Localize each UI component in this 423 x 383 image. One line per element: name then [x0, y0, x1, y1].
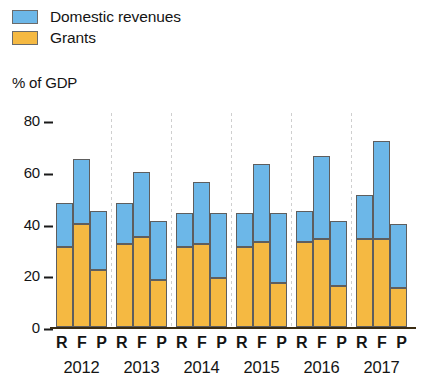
x-year-label-2017: 2017	[356, 358, 407, 377]
bar-segment-grants	[56, 247, 73, 327]
chart-plot-area: 806040200 R F P2012R F P2013R F P2014R F…	[0, 0, 423, 383]
bar-2013-F[interactable]	[133, 172, 150, 327]
bar-2017-P[interactable]	[390, 224, 407, 327]
bar-segment-domestic-revenues	[210, 213, 227, 278]
y-axis-ticks: 806040200	[0, 0, 56, 340]
x-subgroup-letters-2012: R F P	[56, 334, 107, 352]
bar-2012-F[interactable]	[73, 159, 90, 327]
bar-segment-grants	[390, 288, 407, 327]
bar-segment-domestic-revenues	[236, 213, 253, 247]
x-subgroup-letters-2013: R F P	[116, 334, 167, 352]
bar-segment-grants	[313, 239, 330, 327]
y-tick-mark	[44, 277, 53, 279]
y-tick-80: 80	[24, 112, 53, 129]
x-axis-labels: R F P2012R F P2013R F P2014R F P2015R F …	[0, 334, 423, 383]
bar-2014-P[interactable]	[210, 213, 227, 327]
x-label-group-2016: R F P2016	[296, 334, 347, 377]
bar-group-2015	[236, 67, 287, 327]
bar-segment-domestic-revenues	[90, 211, 107, 270]
y-tick-mark	[44, 122, 53, 124]
bar-segment-grants	[270, 283, 287, 327]
x-year-label-2015: 2015	[236, 358, 287, 377]
bar-2014-R[interactable]	[176, 213, 193, 327]
bar-segment-domestic-revenues	[373, 141, 390, 239]
bar-2017-F[interactable]	[373, 141, 390, 327]
bar-segment-grants	[90, 270, 107, 327]
y-tick-value: 40	[24, 215, 40, 232]
bar-segment-domestic-revenues	[150, 221, 167, 280]
bar-segment-domestic-revenues	[116, 203, 133, 244]
bar-segment-domestic-revenues	[330, 221, 347, 286]
group-separator	[351, 113, 352, 327]
bar-2015-R[interactable]	[236, 213, 253, 327]
bar-2016-F[interactable]	[313, 156, 330, 327]
x-subgroup-letters-2014: R F P	[176, 334, 227, 352]
bar-segment-grants	[150, 280, 167, 327]
y-tick-40: 40	[24, 215, 53, 232]
bar-2013-R[interactable]	[116, 203, 133, 327]
y-tick-20: 20	[24, 267, 53, 284]
bar-group-2014	[176, 67, 227, 327]
group-separator	[291, 113, 292, 327]
bar-2012-R[interactable]	[56, 203, 73, 327]
bar-segment-domestic-revenues	[56, 203, 73, 247]
bar-segment-domestic-revenues	[193, 182, 210, 244]
bar-segment-grants	[356, 239, 373, 327]
bar-2015-F[interactable]	[253, 164, 270, 327]
bar-segment-domestic-revenues	[73, 159, 90, 224]
y-tick-value: 0	[32, 319, 40, 336]
x-label-group-2013: R F P2013	[116, 334, 167, 377]
bar-2015-P[interactable]	[270, 213, 287, 327]
group-separator	[231, 113, 232, 327]
bar-segment-domestic-revenues	[390, 224, 407, 289]
bar-segment-domestic-revenues	[133, 172, 150, 237]
bar-segment-grants	[116, 244, 133, 327]
bar-segment-grants	[236, 247, 253, 327]
x-subgroup-letters-2016: R F P	[296, 334, 347, 352]
bar-segment-grants	[176, 247, 193, 327]
bar-group-2013	[116, 67, 167, 327]
x-subgroup-letters-2017: R F P	[356, 334, 407, 352]
bar-segment-grants	[296, 242, 313, 327]
x-year-label-2013: 2013	[116, 358, 167, 377]
group-separator	[171, 113, 172, 327]
x-label-group-2014: R F P2014	[176, 334, 227, 377]
x-year-label-2014: 2014	[176, 358, 227, 377]
x-year-label-2012: 2012	[56, 358, 107, 377]
bar-segment-grants	[73, 224, 90, 327]
x-subgroup-letters-2015: R F P	[236, 334, 287, 352]
bar-segment-domestic-revenues	[253, 164, 270, 242]
bar-segment-domestic-revenues	[270, 213, 287, 283]
y-tick-value: 20	[24, 267, 40, 284]
bar-segment-grants	[373, 239, 390, 327]
bar-segment-grants	[253, 242, 270, 327]
bar-segment-grants	[133, 237, 150, 327]
bar-segment-domestic-revenues	[356, 195, 373, 239]
bar-2014-F[interactable]	[193, 182, 210, 327]
y-tick-60: 60	[24, 163, 53, 180]
y-tick-mark	[44, 173, 53, 175]
bar-2016-R[interactable]	[296, 211, 313, 327]
bar-segment-domestic-revenues	[296, 211, 313, 242]
bar-group-2016	[296, 67, 347, 327]
bar-segment-domestic-revenues	[313, 156, 330, 239]
bar-segment-grants	[330, 286, 347, 327]
bar-segment-grants	[210, 278, 227, 327]
y-tick-mark	[44, 225, 53, 227]
x-label-group-2017: R F P2017	[356, 334, 407, 377]
x-axis-baseline	[50, 327, 416, 329]
bar-2012-P[interactable]	[90, 211, 107, 327]
bar-2013-P[interactable]	[150, 221, 167, 327]
y-tick-value: 80	[24, 112, 40, 129]
bar-group-2017	[356, 67, 407, 327]
bar-group-2012	[56, 67, 107, 327]
y-tick-value: 60	[24, 163, 40, 180]
x-year-label-2016: 2016	[296, 358, 347, 377]
group-separator	[111, 113, 112, 327]
bar-2017-R[interactable]	[356, 195, 373, 327]
x-label-group-2015: R F P2015	[236, 334, 287, 377]
bar-segment-grants	[193, 244, 210, 327]
x-label-group-2012: R F P2012	[56, 334, 107, 377]
bar-2016-P[interactable]	[330, 221, 347, 327]
bar-segment-domestic-revenues	[176, 213, 193, 247]
